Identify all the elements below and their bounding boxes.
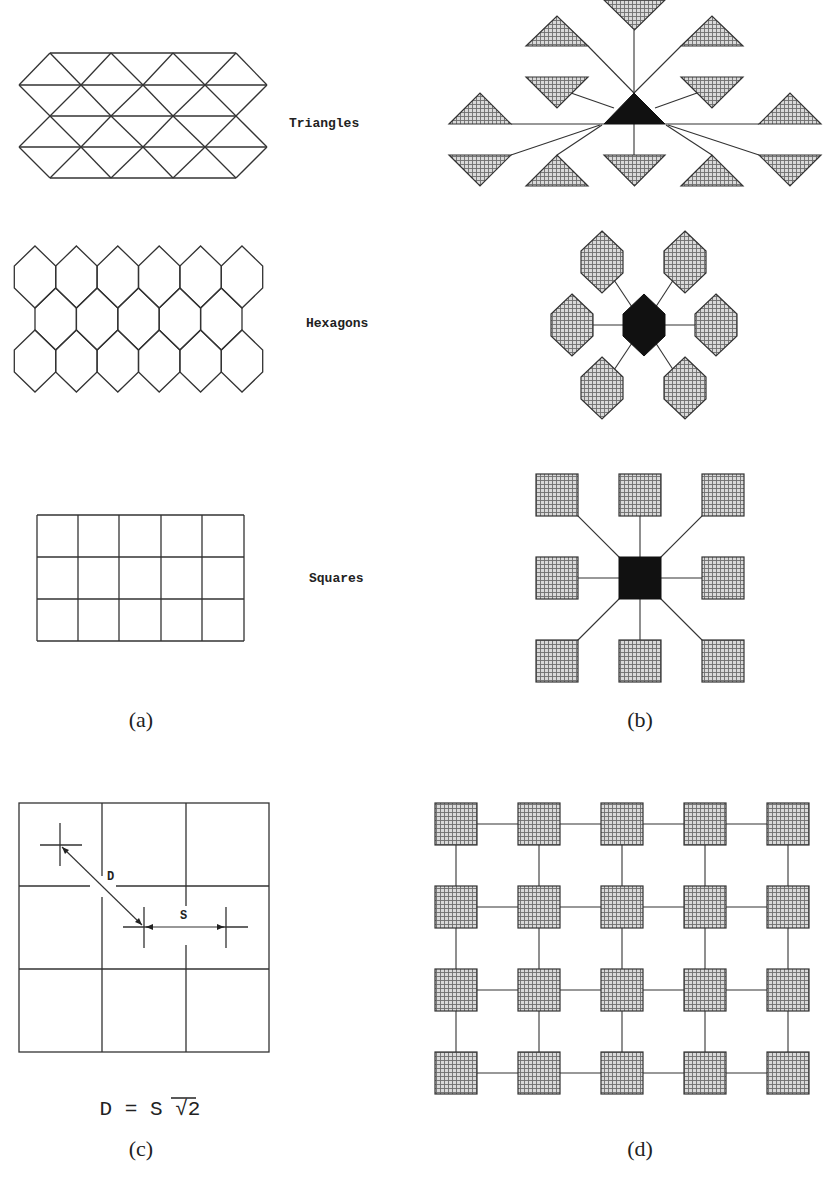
neighbor-square <box>702 474 744 516</box>
grid-node-square <box>518 969 560 1011</box>
hex-cell <box>14 330 55 392</box>
grid-node-square <box>518 886 560 928</box>
hex-cell <box>139 330 180 392</box>
neighbor-hexagon <box>695 294 737 356</box>
hex-cell <box>14 246 55 308</box>
grid-node-square <box>518 803 560 845</box>
distance-formula: D = S √2 <box>100 1098 201 1121</box>
side-label: S <box>180 909 187 923</box>
grid-node-square <box>684 1052 726 1094</box>
grid-node-square <box>435 803 477 845</box>
neighbor-triangle <box>449 155 511 186</box>
square-grid-network <box>435 803 809 1094</box>
hex-cell <box>118 288 159 350</box>
hex-cell <box>180 330 221 392</box>
square-neighborhood <box>536 474 744 682</box>
hex-cell <box>221 330 262 392</box>
triangle-mesh <box>19 53 267 178</box>
neighbor-triangle <box>604 155 665 186</box>
hex-cell <box>97 246 138 308</box>
neighbor-hexagon <box>551 294 593 356</box>
neighbor-triangle <box>759 93 821 124</box>
hexagon-mesh <box>14 246 262 392</box>
tessellation-figure: Triangles Hexagons Squares (a) (b) <box>0 0 831 1183</box>
grid-node-square <box>601 886 643 928</box>
triangles-label: Triangles <box>289 116 359 131</box>
neighbor-square <box>536 474 578 516</box>
center-square <box>619 557 661 599</box>
hex-cell <box>97 330 138 392</box>
grid-node-square <box>435 886 477 928</box>
hex-cell <box>201 288 242 350</box>
grid-node-square <box>684 969 726 1011</box>
caption-a: (a) <box>129 707 153 732</box>
neighbor-triangle <box>681 77 743 108</box>
neighbor-square <box>619 640 661 682</box>
hex-cell <box>76 288 117 350</box>
neighbor-square <box>702 557 744 599</box>
neighbor-triangle <box>759 155 821 186</box>
hexagon-neighborhood <box>551 231 737 419</box>
neighbor-square <box>702 640 744 682</box>
grid-node-square <box>601 803 643 845</box>
grid-node-square <box>767 886 809 928</box>
hex-cell <box>35 288 76 350</box>
grid-node-square <box>601 1052 643 1094</box>
squares-label: Squares <box>309 571 364 586</box>
neighbor-triangle <box>449 93 511 124</box>
neighbor-square <box>536 557 578 599</box>
caption-d: (d) <box>627 1136 653 1161</box>
grid-node-square <box>601 969 643 1011</box>
hex-cell <box>139 246 180 308</box>
grid-node-square <box>684 803 726 845</box>
hex-cell <box>180 246 221 308</box>
center-triangle <box>604 93 665 124</box>
neighbor-square <box>536 640 578 682</box>
neighbor-triangle <box>526 16 588 46</box>
grid-node-square <box>435 969 477 1011</box>
square-mesh <box>37 515 244 641</box>
grid-node-square <box>767 803 809 845</box>
neighbor-square <box>619 474 661 516</box>
caption-c: (c) <box>129 1136 153 1161</box>
hexagons-label: Hexagons <box>306 316 369 331</box>
hex-cell <box>56 330 97 392</box>
neighbor-triangle <box>681 16 743 46</box>
hex-cell <box>56 246 97 308</box>
hex-cell <box>159 288 200 350</box>
grid-node-square <box>435 1052 477 1094</box>
neighbor-triangle <box>604 0 665 30</box>
neighbor-triangle <box>681 155 743 186</box>
hex-cell <box>221 246 262 308</box>
grid-node-square <box>518 1052 560 1094</box>
distance-diagram <box>19 803 269 1052</box>
neighbor-triangle <box>526 77 588 108</box>
neighbor-triangle <box>526 155 588 186</box>
diagonal-label: D <box>107 870 114 884</box>
grid-node-square <box>767 969 809 1011</box>
caption-b: (b) <box>627 707 653 732</box>
grid-node-square <box>684 886 726 928</box>
triangle-neighborhood <box>449 0 821 186</box>
grid-node-square <box>767 1052 809 1094</box>
